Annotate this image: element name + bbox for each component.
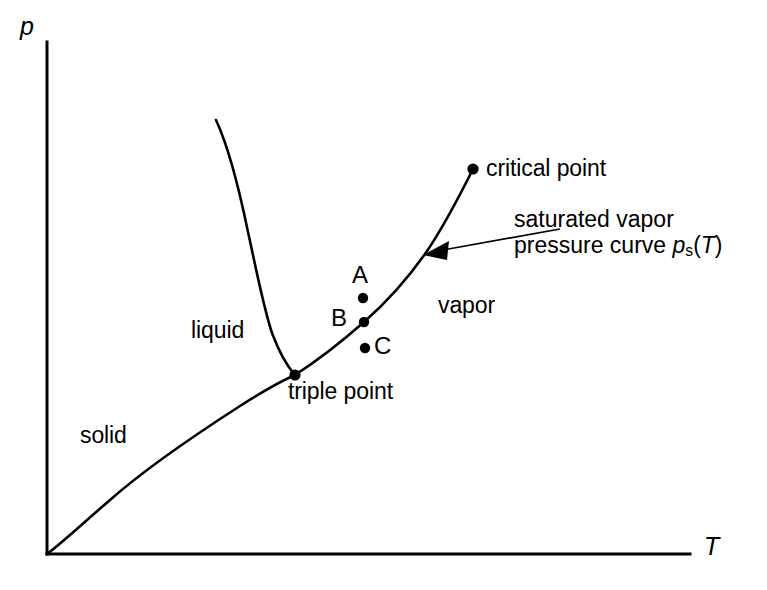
annotation-paren-close: ) xyxy=(715,232,723,258)
annotation-symbol-p: p xyxy=(673,232,686,258)
axes-group xyxy=(47,42,690,554)
y-axis-label: p xyxy=(20,14,34,39)
state-a-dot xyxy=(358,293,368,303)
phase-diagram-canvas xyxy=(0,0,767,590)
state-c-dot xyxy=(360,343,370,353)
state-a-label: A xyxy=(352,262,368,287)
annotation-line-1: saturated vapor xyxy=(514,206,723,232)
state-b-label: B xyxy=(331,305,347,330)
critical-point-dot xyxy=(467,163,478,174)
x-axis-label: T xyxy=(704,534,719,559)
state-b-dot xyxy=(359,317,369,327)
annotation-symbol-T: T xyxy=(701,232,715,258)
annotation-line-2-prefix: pressure curve xyxy=(514,232,673,258)
region-label-solid: solid xyxy=(80,423,127,448)
annotation-line-2: pressure curve ps(T) xyxy=(514,232,723,264)
critical-point-label: critical point xyxy=(486,156,606,181)
sublimation-curve xyxy=(47,375,295,554)
region-label-vapor: vapor xyxy=(438,293,495,318)
annotation-paren-open: ( xyxy=(693,232,701,258)
state-c-label: C xyxy=(374,333,391,358)
region-label-liquid: liquid xyxy=(191,318,244,343)
saturated-vapor-annotation: saturated vapor pressure curve ps(T) xyxy=(514,206,723,264)
triple-point-label: triple point xyxy=(288,379,393,404)
annotation-symbol-subscript: s xyxy=(685,242,693,259)
phase-diagram-figure: p T solid liquid vapor triple point crit… xyxy=(0,0,767,590)
